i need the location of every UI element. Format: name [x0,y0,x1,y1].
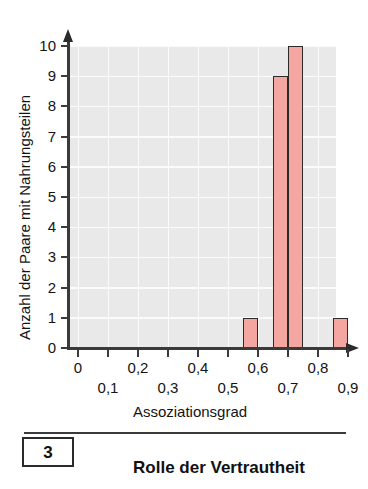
y-axis-tick-label: 7 [34,129,56,144]
x-axis-tick-label: 0,7 [268,380,308,395]
figure: 109876543210 00,20,40,60,80,10,30,50,70,… [0,0,368,489]
histogram-bar [273,76,288,348]
caption-number: 3 [43,444,52,461]
y-axis-tick-label: 6 [34,159,56,174]
y-axis-tick [61,166,68,168]
gridline-vertical [78,46,80,348]
gridline-vertical [138,46,140,348]
x-axis-tick-label: 0,1 [88,380,128,395]
y-axis-tick [61,196,68,198]
x-axis-tick-label: 0,3 [148,380,188,395]
y-axis-tick-label: 4 [34,219,56,234]
x-axis-tick-label: 0 [58,360,98,375]
y-axis-tick-label: 1 [34,310,56,325]
caption-number-box: 3 [22,437,74,467]
x-axis-title: Assoziationsgrad [60,403,320,420]
x-axis-tick [167,349,169,357]
y-axis-tick [61,226,68,228]
x-axis-tick [137,349,139,357]
y-axis-tick-label: 8 [34,98,56,113]
y-axis-tick-label: 2 [34,280,56,295]
x-axis-tick [257,349,259,357]
x-axis-tick-label: 0,2 [118,360,158,375]
x-axis-tick-label: 0,6 [238,360,278,375]
y-axis-tick [61,287,68,289]
y-axis-tick [61,256,68,258]
y-axis-tick-label: 3 [34,249,56,264]
y-axis-tick [61,45,68,47]
x-axis-tick-label: 0,5 [208,380,248,395]
histogram-chart: 109876543210 00,20,40,60,80,10,30,50,70,… [0,0,368,420]
histogram-bar [243,318,258,348]
y-axis-tick [61,317,68,319]
x-axis-tick [77,349,79,357]
x-axis-tick [317,349,319,357]
gridline-vertical [228,46,230,348]
x-axis-tick [227,349,229,357]
caption-title: Rolle der Vertrautheit [92,458,346,478]
y-axis-tick [61,105,68,107]
y-axis-arrow-icon [63,29,73,42]
histogram-bar [288,46,303,348]
y-axis-tick-label: 5 [34,189,56,204]
gridline-vertical [168,46,170,348]
caption-divider [24,432,346,434]
y-axis-tick-label: 9 [34,68,56,83]
y-axis-tick [61,347,68,349]
x-axis-tick-label: 0,9 [328,380,368,395]
y-axis-tick [61,75,68,77]
x-axis-tick [197,349,199,357]
y-axis-title: Anzahl der Paare mit Nahrungsteilen [16,95,33,340]
y-axis-tick-label: 10 [34,38,56,53]
figure-caption: 3 Rolle der Vertrautheit [22,432,346,484]
x-axis-tick-label: 0,8 [298,360,338,375]
y-axis-tick-label: 0 [34,340,56,355]
x-axis-tick [347,349,349,357]
x-axis-tick [287,349,289,357]
gridline-vertical [318,46,320,348]
y-axis-tick [61,136,68,138]
gridline-vertical [258,46,260,348]
x-axis-line [67,347,347,350]
x-axis-tick-label: 0,4 [178,360,218,375]
gridline-vertical [198,46,200,348]
gridline-vertical [108,46,110,348]
x-axis-tick [107,349,109,357]
